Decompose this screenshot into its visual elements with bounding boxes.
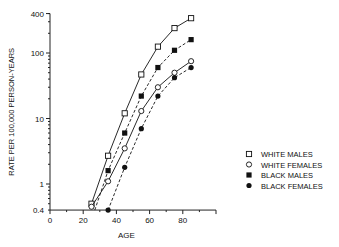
data-point-marker [189,16,194,21]
data-point-marker [139,126,144,131]
x-tick-label: 60 [145,216,154,225]
data-point-marker [89,204,94,209]
data-point-marker [155,85,160,90]
y-tick-label: 0.4 [33,206,45,215]
data-point-marker [189,37,194,42]
data-point-marker [139,108,144,113]
legend-label: WHITE FEMALES [261,161,322,170]
data-point-marker [139,93,144,98]
legend-label: BLACK MALES [261,171,313,180]
data-point-marker [155,65,160,70]
data-point-marker [106,207,111,212]
data-point-marker [139,72,144,77]
data-point-marker [172,75,177,80]
data-point-marker [122,111,127,116]
filled-circle-legend-icon [246,183,251,188]
filled-square-legend-icon [246,172,251,177]
data-point-marker [189,59,194,64]
data-point-marker [172,25,177,30]
series-white-females [89,59,194,210]
data-point-marker [122,165,127,170]
data-point-marker [172,70,177,75]
legend-label: BLACK FEMALES [261,182,323,191]
open-circle-legend-icon [246,162,251,167]
data-point-marker [106,179,111,184]
data-point-marker [189,65,194,70]
x-tick-label: 0 [48,216,53,225]
y-axis-label: RATE PER 100,000 PERSON-YEARS [7,48,16,176]
legend-label: WHITE MALES [261,150,313,159]
x-tick-label: 80 [178,216,187,225]
y-tick-label: 10 [35,115,44,124]
data-point-marker [122,146,127,151]
legend: WHITE MALESWHITE FEMALESBLACK MALESBLACK… [246,150,322,191]
data-point-marker [155,44,160,49]
series-black-males [95,37,194,210]
series-black-females [106,65,194,213]
y-tick-label: 100 [31,49,45,58]
data-point-marker [106,168,111,173]
y-tick-label: 1 [40,180,45,189]
x-tick-label: 20 [79,216,88,225]
line-chart: 0.4110100400020406080AGERATE PER 100,000… [0,0,339,247]
data-point-marker [122,130,127,135]
open-square-legend-icon [246,151,251,156]
data-point-marker [106,153,111,158]
data-point-marker [172,48,177,53]
y-tick-label: 400 [31,10,45,19]
x-axis-label: AGE [118,231,135,240]
data-point-marker [155,93,160,98]
x-tick-label: 40 [112,216,121,225]
